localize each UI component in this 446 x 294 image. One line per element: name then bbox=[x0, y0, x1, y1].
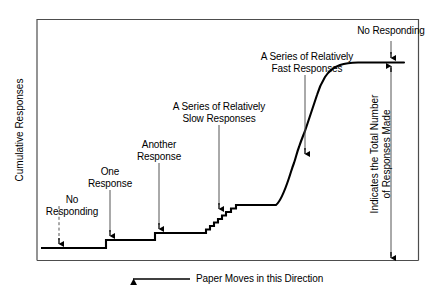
annotation-total-responses-line2: of Responses Made bbox=[381, 110, 392, 199]
annotation-slow-responses-line1: A Series of Relatively bbox=[173, 101, 265, 112]
annotation-slow-responses: A Series of RelativelySlow Responses bbox=[149, 101, 289, 124]
annotation-one-response-line1: One bbox=[101, 166, 120, 177]
annotation-one-response-line2: Response bbox=[88, 178, 132, 189]
annotation-no-responding-left: NoResponding bbox=[31, 194, 113, 217]
annotation-another-response: AnotherResponse bbox=[121, 139, 197, 162]
annotation-another-response-line2: Response bbox=[137, 151, 181, 162]
annotation-no-responding-right: No Responding bbox=[337, 25, 445, 37]
annotation-slow-responses-line2: Slow Responses bbox=[182, 113, 255, 124]
y-axis-label: Cumulative Responses bbox=[14, 70, 26, 190]
annotation-fast-responses-line2: Fast Responses bbox=[272, 63, 343, 74]
annotation-fast-responses: A Series of RelativelyFast Responses bbox=[237, 51, 377, 74]
annotation-total-responses: Indicates the Total Numberof Responses M… bbox=[369, 58, 392, 250]
annotation-no-responding-left-line1: No bbox=[66, 194, 79, 205]
annotation-no-responding-left-line2: Responding bbox=[46, 206, 98, 217]
annotation-fast-responses-line1: A Series of Relatively bbox=[261, 51, 353, 62]
cumulative-record-trace bbox=[41, 63, 404, 249]
annotation-total-responses-line1: Indicates the Total Number bbox=[369, 95, 380, 214]
annotation-another-response-line1: Another bbox=[142, 139, 176, 150]
cumulative-record-figure: Cumulative Responses NoResponding OneRes… bbox=[0, 0, 446, 294]
annotation-one-response: OneResponse bbox=[72, 166, 148, 189]
x-axis-label: Paper Moves in this Direction bbox=[196, 273, 323, 285]
